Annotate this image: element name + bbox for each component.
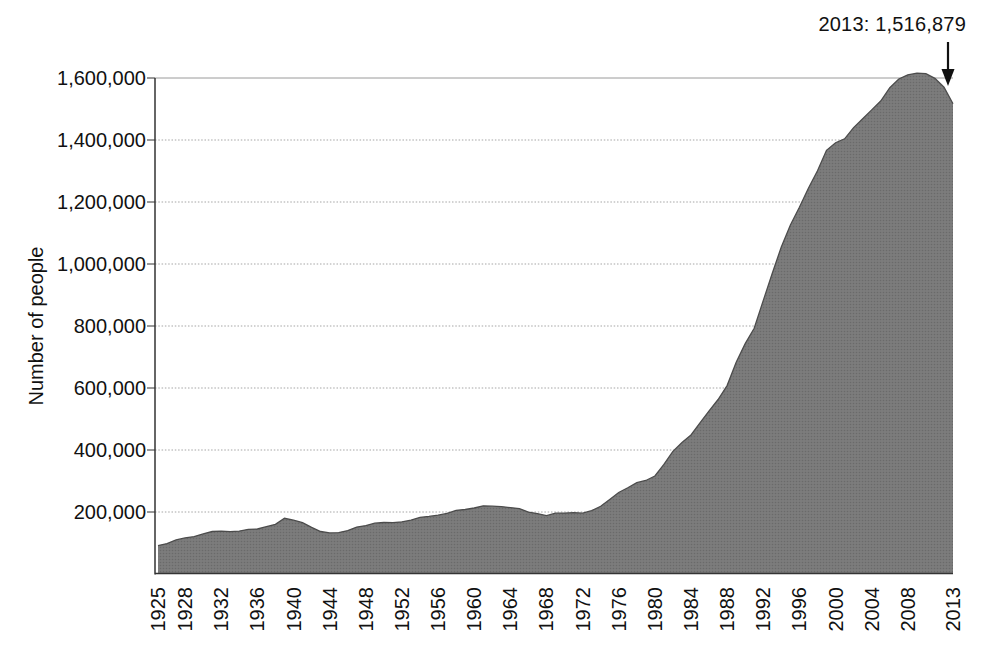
x-axis-tick-label: 1932 — [210, 587, 232, 632]
y-axis-tick-label: 200,000 — [74, 501, 146, 523]
y-axis-tick-label: 1,000,000 — [57, 253, 146, 275]
x-axis-tick-label: 1928 — [174, 587, 196, 632]
x-axis-tick-label: 1944 — [319, 587, 341, 632]
x-axis-tick-label: 1925 — [147, 587, 169, 632]
y-axis-tick-label: 1,200,000 — [57, 191, 146, 213]
figure-prison-population-chart: 200,000400,000600,000800,0001,000,0001,2… — [0, 0, 984, 655]
area-series — [158, 73, 953, 573]
x-axis-tick-label: 1940 — [283, 587, 305, 632]
y-axis-tick-label: 400,000 — [74, 439, 146, 461]
x-axis-tick-label: 1960 — [463, 587, 485, 632]
x-axis-tick-label: 2004 — [861, 587, 883, 632]
prison-population-area-chart: 200,000400,000600,000800,0001,000,0001,2… — [0, 0, 984, 655]
y-axis-tick-label: 1,400,000 — [57, 129, 146, 151]
x-axis-tick-label: 1956 — [427, 587, 449, 632]
x-axis-tick-label: 1952 — [391, 587, 413, 632]
x-axis-tick-label: 1992 — [752, 587, 774, 632]
x-axis-tick-label: 2008 — [897, 587, 919, 632]
x-axis-tick-label: 2013 — [942, 587, 964, 632]
x-axis-tick-label: 2000 — [825, 587, 847, 632]
y-axis-title: Number of people — [25, 247, 48, 406]
x-axis-tick-label: 1988 — [716, 587, 738, 632]
peak-value-annotation: 2013: 1,516,879 — [818, 13, 966, 36]
y-axis-tick-label: 600,000 — [74, 377, 146, 399]
y-axis-tick-label: 1,600,000 — [57, 67, 146, 89]
x-axis-tick-label: 1996 — [788, 587, 810, 632]
x-axis-tick-label: 1984 — [680, 587, 702, 632]
x-axis-tick-label: 1972 — [572, 587, 594, 632]
x-axis-tick-label: 1968 — [535, 587, 557, 632]
y-axis-tick-label: 800,000 — [74, 315, 146, 337]
x-axis-tick-label: 1948 — [355, 587, 377, 632]
x-axis-tick-label: 1936 — [246, 587, 268, 632]
x-axis-tick-label: 1964 — [499, 587, 521, 632]
x-axis-tick-label: 1980 — [644, 587, 666, 632]
x-axis-tick-label: 1976 — [608, 587, 630, 632]
